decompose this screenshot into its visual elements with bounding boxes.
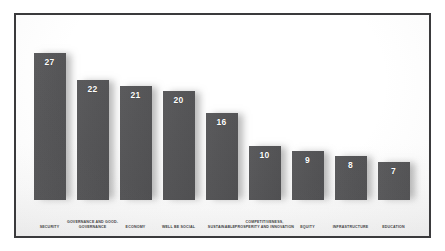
bar-value-label: 10 <box>249 150 281 160</box>
bar-value-label: 8 <box>335 160 367 170</box>
bar[interactable]: 16 <box>206 113 238 200</box>
bar-value-label: 21 <box>120 90 152 100</box>
bar-value-label: 7 <box>378 166 410 176</box>
bar-group[interactable]: 9EQUITY <box>292 15 324 236</box>
bar-group[interactable]: 10COMPETITIVENESS, PROSPERITY AND INNOVA… <box>249 15 281 236</box>
bar[interactable]: 22 <box>77 80 109 200</box>
bar-category-label: EDUCATION <box>362 225 426 230</box>
bar-group[interactable]: 22GOVERNANCE AND GOOD-GOVERNANCE <box>77 15 109 236</box>
chart-frame: 27SECURITY22GOVERNANCE AND GOOD-GOVERNAN… <box>14 13 431 238</box>
bar-texture <box>34 53 66 200</box>
bar-group[interactable]: 20WELL BE SOCIAL <box>163 15 195 236</box>
bar-texture <box>120 86 152 200</box>
bar[interactable]: 27 <box>34 53 66 200</box>
bar-group[interactable]: 7EDUCATION <box>378 15 410 236</box>
bar-value-label: 22 <box>77 84 109 94</box>
bar-group[interactable]: 27SECURITY <box>34 15 66 236</box>
bar-group[interactable]: 8INFRASTRUCTURE <box>335 15 367 236</box>
bar-group[interactable]: 21ECONOMY <box>120 15 152 236</box>
bar-value-label: 27 <box>34 57 66 67</box>
bar-group[interactable]: 16SUSTAINABLE <box>206 15 238 236</box>
bar-texture <box>163 91 195 200</box>
bar[interactable]: 7 <box>378 162 410 200</box>
bar[interactable]: 20 <box>163 91 195 200</box>
bar[interactable]: 9 <box>292 151 324 200</box>
bar[interactable]: 21 <box>120 86 152 200</box>
bar-value-label: 9 <box>292 155 324 165</box>
bar-value-label: 20 <box>163 95 195 105</box>
bar[interactable]: 10 <box>249 146 281 200</box>
bar[interactable]: 8 <box>335 156 367 200</box>
bar-texture <box>77 80 109 200</box>
bar-value-label: 16 <box>206 117 238 127</box>
plot-area: 27SECURITY22GOVERNANCE AND GOOD-GOVERNAN… <box>16 15 429 236</box>
